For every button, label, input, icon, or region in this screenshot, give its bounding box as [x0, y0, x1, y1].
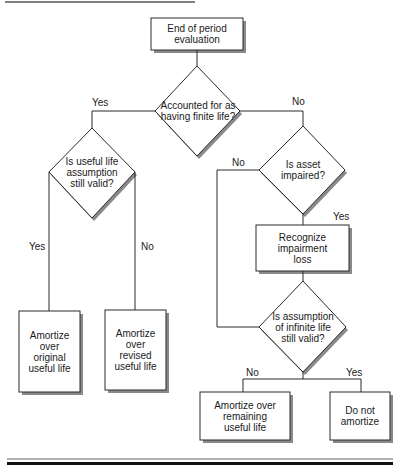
useful-question: Is useful life assumption still valid? [62, 152, 122, 192]
start-node: End of period evaluation [151, 18, 243, 50]
impaired-no-label: No [232, 157, 245, 169]
infinite-yes-label: Yes [346, 367, 362, 379]
infinite-no-label: No [246, 367, 259, 379]
finite-yes-label: Yes [92, 97, 108, 109]
useful-yes-label: Yes [29, 241, 45, 253]
impaired-yes-label: Yes [333, 211, 349, 223]
recognize-node: Recognize impairment loss [256, 225, 349, 271]
no-amortize-node: Do not amortize [330, 392, 390, 440]
revised-node: Amortize over revised useful life [105, 310, 166, 390]
original-node: Amortize over original useful life [19, 311, 80, 392]
remaining-node: Amortize over remaining useful life [200, 392, 290, 440]
finite-question: Accounted for as having finite life? [160, 90, 236, 132]
impaired-question: Is asset impaired? [280, 155, 326, 185]
useful-no-label: No [141, 241, 154, 253]
finite-no-label: No [292, 96, 305, 108]
infinite-question: Is assumption of infinite life still val… [268, 307, 338, 347]
